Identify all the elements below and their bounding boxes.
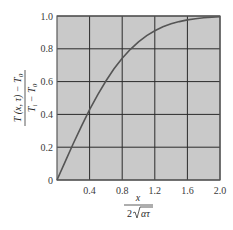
erf-chart: 0.40.81.21.62.0 00.20.40.60.81.0 x 2 ατ …: [0, 0, 233, 230]
x-tick-label: 1.2: [149, 185, 162, 196]
x-tick-labels: 0.40.81.21.62.0: [83, 185, 226, 196]
x-tick-label: 1.6: [181, 185, 194, 196]
y-tick-labels: 00.20.40.60.81.0: [41, 11, 54, 186]
y-label-numerator-text: T (x, τ) − T: [12, 76, 24, 122]
y-tick-label: 0.6: [41, 76, 54, 87]
x-tick-label: 0.8: [116, 185, 129, 196]
y-tick-label: 0.4: [41, 109, 54, 120]
y-tick-label: 0.2: [41, 142, 54, 153]
y-axis-label: T (x, τ) − T0 Ti − T0: [12, 70, 39, 126]
x-tick-label: 2.0: [214, 185, 227, 196]
x-tick-label: 0.4: [83, 185, 96, 196]
y-tick-label: 1.0: [41, 11, 54, 22]
y-label-den-b: − T: [26, 86, 37, 105]
y-label-numerator-sub: 0: [17, 73, 25, 77]
y-label-numerator: T (x, τ) − T0: [12, 73, 25, 122]
plot-area: [57, 16, 220, 180]
y-tick-label: 0.8: [41, 43, 54, 54]
x-label-denominator-radicand: ατ: [141, 208, 150, 219]
y-tick-label: 0: [48, 175, 53, 186]
x-axis-label: x 2 ατ: [124, 192, 153, 219]
y-label-den-b-sub: 0: [31, 83, 39, 87]
y-label-denominator: Ti − T0: [26, 83, 39, 112]
x-label-numerator: x: [135, 192, 141, 203]
x-label-denominator-prefix: 2: [127, 208, 132, 219]
